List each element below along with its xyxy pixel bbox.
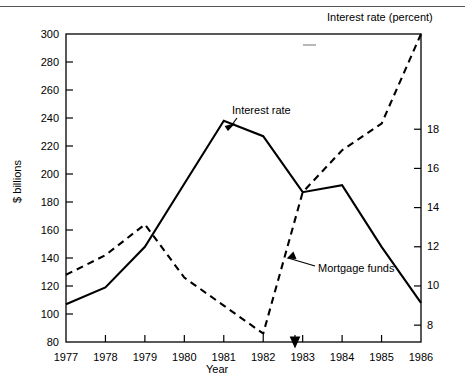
y-axis-left-tick-label: 160 bbox=[33, 225, 59, 236]
y-axis-left-tick-label: 120 bbox=[33, 281, 59, 292]
series-mortgage-funds-line bbox=[66, 34, 421, 334]
x-axis-tick-label: 1985 bbox=[362, 352, 402, 363]
y-axis-left-tick-label: 100 bbox=[33, 309, 59, 320]
chart-canvas bbox=[0, 0, 465, 390]
y-axis-left-tick-label: 300 bbox=[33, 29, 59, 40]
y-axis-left-tick-label: 140 bbox=[33, 253, 59, 264]
y-axis-right-tick-label: 18 bbox=[427, 124, 447, 135]
x-axis-ticks bbox=[105, 335, 381, 342]
annotation-mortgage-funds: Mortgage funds bbox=[318, 263, 394, 274]
y-axis-left-ticks bbox=[66, 62, 73, 314]
x-axis-tick-label: 1982 bbox=[243, 352, 283, 363]
y-axis-right-tick-label: 12 bbox=[427, 241, 447, 252]
y-axis-left-tick-label: 280 bbox=[33, 57, 59, 68]
y-axis-right-tick-label: 14 bbox=[427, 202, 447, 213]
y-axis-left-tick-label: 240 bbox=[33, 113, 59, 124]
series-interest-rate-line bbox=[66, 121, 421, 304]
annotation-interest-rate: Interest rate bbox=[232, 105, 291, 116]
x-axis-tick-label: 1984 bbox=[322, 352, 362, 363]
chart-figure: Interest rate (percent) $ billions Year … bbox=[0, 0, 465, 390]
y-axis-right-tick-label: 16 bbox=[427, 163, 447, 174]
x-axis-tick-label: 1979 bbox=[125, 352, 165, 363]
y-axis-left-tick-label: 200 bbox=[33, 169, 59, 180]
right-axis-title: Interest rate (percent) bbox=[327, 12, 433, 23]
y-axis-right-tick-label: 10 bbox=[427, 280, 447, 291]
x-axis-tick-label: 1980 bbox=[164, 352, 204, 363]
y-axis-left-tick-label: 220 bbox=[33, 141, 59, 152]
x-axis-tick-label: 1978 bbox=[85, 352, 125, 363]
y-axis-left-tick-label: 260 bbox=[33, 85, 59, 96]
y-axis-right-tick-label: 8 bbox=[427, 320, 447, 331]
x-axis-tick-label: 1977 bbox=[46, 352, 86, 363]
y-axis-left-tick-label: 80 bbox=[33, 337, 59, 348]
annotation-arrows bbox=[226, 118, 315, 347]
left-axis-title: $ billions bbox=[12, 147, 23, 217]
x-axis-title: Year bbox=[206, 364, 228, 375]
x-axis-tick-label: 1981 bbox=[204, 352, 244, 363]
x-axis-tick-label: 1983 bbox=[283, 352, 323, 363]
plot-frame bbox=[66, 34, 421, 342]
y-axis-left-tick-label: 180 bbox=[33, 197, 59, 208]
x-axis-tick-label: 1986 bbox=[401, 352, 441, 363]
